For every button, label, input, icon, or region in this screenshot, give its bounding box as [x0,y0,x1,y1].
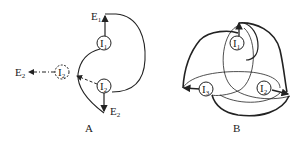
panel-a-caption: A [85,122,93,134]
terminal-e2: E2 [110,105,121,119]
terminal-e1: E1 [91,10,102,24]
terminal-e2-left: E2 [15,66,26,80]
panel-b-caption: B [233,122,240,134]
outer-curve-lip [244,23,258,60]
diagram-canvas: I1 I2 I2 E1 E2 E2 A I1 I2 I3 [0,0,302,143]
panel-b-nodes: I1 I2 I3 B [199,36,271,134]
outer-curve-top [183,31,238,88]
inner-loop-4 [220,93,280,102]
dashed-link [77,76,97,84]
panel-a: I1 I2 I2 E1 E2 E2 A [15,10,145,134]
arrow-i3 [184,88,200,89]
loop-right-curve [105,14,145,92]
